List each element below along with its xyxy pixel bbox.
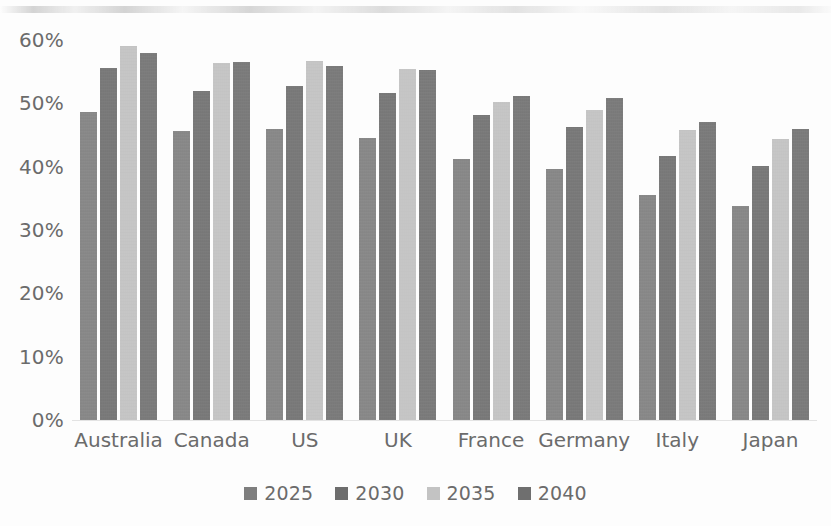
bar[interactable] [173,131,190,420]
bar[interactable] [453,159,470,420]
bar[interactable] [513,96,530,420]
x-axis-line [72,420,817,421]
legend-label: 2030 [355,482,404,504]
y-axis-tick-label: 20% [0,281,64,305]
bar[interactable] [419,70,436,420]
bar[interactable] [233,62,250,420]
bars-container [72,40,817,420]
bar[interactable] [286,86,303,420]
bar[interactable] [772,139,789,420]
y-axis-tick-label: 0% [0,408,64,432]
bar[interactable] [100,68,117,420]
y-axis-tick-label: 10% [0,345,64,369]
bar[interactable] [193,91,210,420]
x-axis-tick-label: France [458,428,525,452]
bar-group [258,40,351,420]
bar[interactable] [659,156,676,420]
bar[interactable] [752,166,769,420]
x-axis-tick-label: UK [384,428,412,452]
legend-item[interactable]: 2030 [335,482,404,504]
y-axis-tick-label: 60% [0,28,64,52]
x-axis-tick-label: Australia [74,428,162,452]
chart-legend: 2025203020352040 [0,482,831,504]
bar[interactable] [566,127,583,420]
legend-item[interactable]: 2035 [427,482,496,504]
x-axis-tick-label: Italy [656,428,699,452]
bar[interactable] [606,98,623,420]
legend-item[interactable]: 2025 [244,482,313,504]
legend-swatch-icon [427,487,440,500]
legend-label: 2025 [264,482,313,504]
bar-group [724,40,817,420]
bar[interactable] [306,61,323,420]
legend-label: 2035 [447,482,496,504]
bar[interactable] [792,129,809,420]
bar[interactable] [359,138,376,420]
bar-group [351,40,444,420]
bar[interactable] [679,130,696,420]
x-axis-tick-label: Japan [743,428,799,452]
bar[interactable] [140,53,157,420]
bar-group [165,40,258,420]
bar-group [72,40,165,420]
x-axis-tick-label: Germany [538,428,630,452]
bar[interactable] [326,66,343,420]
plot-area: 60%50%40%30%20%10%0% AustraliaCanadaUSUK… [0,0,831,526]
bar[interactable] [266,129,283,420]
y-axis-tick-label: 40% [0,155,64,179]
bar[interactable] [379,93,396,420]
x-axis-tick-label: US [291,428,318,452]
bar-chart: 60%50%40%30%20%10%0% AustraliaCanadaUSUK… [0,0,831,526]
bar[interactable] [399,69,416,421]
legend-swatch-icon [244,487,257,500]
bar[interactable] [546,169,563,420]
bar-group [631,40,724,420]
legend-swatch-icon [335,487,348,500]
bar[interactable] [493,102,510,420]
y-axis-tick-label: 50% [0,91,64,115]
bar[interactable] [213,63,230,420]
bar[interactable] [732,206,749,420]
bar[interactable] [80,112,97,420]
bar[interactable] [120,46,137,420]
bar[interactable] [699,122,716,420]
legend-swatch-icon [518,487,531,500]
bar[interactable] [639,195,656,420]
bar-group [538,40,631,420]
x-axis-labels: AustraliaCanadaUSUKFranceGermanyItalyJap… [72,428,817,464]
legend-item[interactable]: 2040 [518,482,587,504]
x-axis-tick-label: Canada [174,428,250,452]
bar[interactable] [586,110,603,420]
y-axis-tick-label: 30% [0,218,64,242]
bar-group [445,40,538,420]
y-axis: 60%50%40%30%20%10%0% [0,0,64,526]
legend-label: 2040 [538,482,587,504]
bar[interactable] [473,115,490,420]
